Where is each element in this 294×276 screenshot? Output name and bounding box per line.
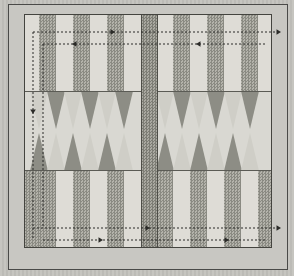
top-tray-band <box>207 15 224 91</box>
top-tray-band <box>173 15 190 91</box>
board-point <box>224 133 242 171</box>
top-tray-band <box>25 15 39 91</box>
board-point <box>207 133 225 171</box>
board-point <box>47 91 65 129</box>
board-point <box>190 133 208 171</box>
board-point <box>64 133 82 171</box>
bottom-tray-band <box>107 171 124 247</box>
bottom-tray-band <box>224 171 241 247</box>
board-point <box>173 91 191 129</box>
backgammon-board <box>24 14 272 248</box>
bottom-tray-band <box>241 171 258 247</box>
top-tray-band <box>39 15 56 91</box>
bottom-tray-band <box>173 171 190 247</box>
board-point <box>30 91 48 129</box>
board-point <box>115 133 133 171</box>
top-tray-band <box>224 15 241 91</box>
board-point <box>98 133 116 171</box>
board-point <box>81 91 99 129</box>
bottom-tray-band <box>90 171 107 247</box>
bottom-tray-band <box>56 171 73 247</box>
board-point <box>156 91 174 129</box>
bottom-tray-band <box>156 171 173 247</box>
top-tray-band <box>56 15 73 91</box>
bottom-tray-band <box>39 171 56 247</box>
board-point <box>224 91 242 129</box>
top-tray-band <box>124 15 141 91</box>
bottom-tray-band <box>258 171 271 247</box>
board-point <box>47 133 65 171</box>
top-tray-band <box>73 15 90 91</box>
board-point <box>64 91 82 129</box>
board-point <box>81 133 99 171</box>
board-point <box>241 133 259 171</box>
top-tray-band <box>190 15 207 91</box>
top-tray-band <box>156 15 173 91</box>
top-tray-band <box>258 15 271 91</box>
top-tray-band <box>107 15 124 91</box>
bottom-tray-band <box>73 171 90 247</box>
figure-canvas: Backgammon board with movement direction… <box>0 0 294 276</box>
board-point <box>115 91 133 129</box>
board-point <box>207 91 225 129</box>
board-point <box>98 91 116 129</box>
board-point <box>30 133 48 171</box>
bottom-tray-band <box>124 171 141 247</box>
board-point <box>156 133 174 171</box>
figure-title: Backgammon board with movement direction… <box>0 0 1 1</box>
bottom-tray-band <box>207 171 224 247</box>
bottom-tray-band <box>25 171 39 247</box>
top-tray-band <box>241 15 258 91</box>
center-bar <box>141 15 158 247</box>
board-point <box>173 133 191 171</box>
board-point <box>241 91 259 129</box>
board-point <box>190 91 208 129</box>
top-tray-band <box>90 15 107 91</box>
bottom-tray-band <box>190 171 207 247</box>
